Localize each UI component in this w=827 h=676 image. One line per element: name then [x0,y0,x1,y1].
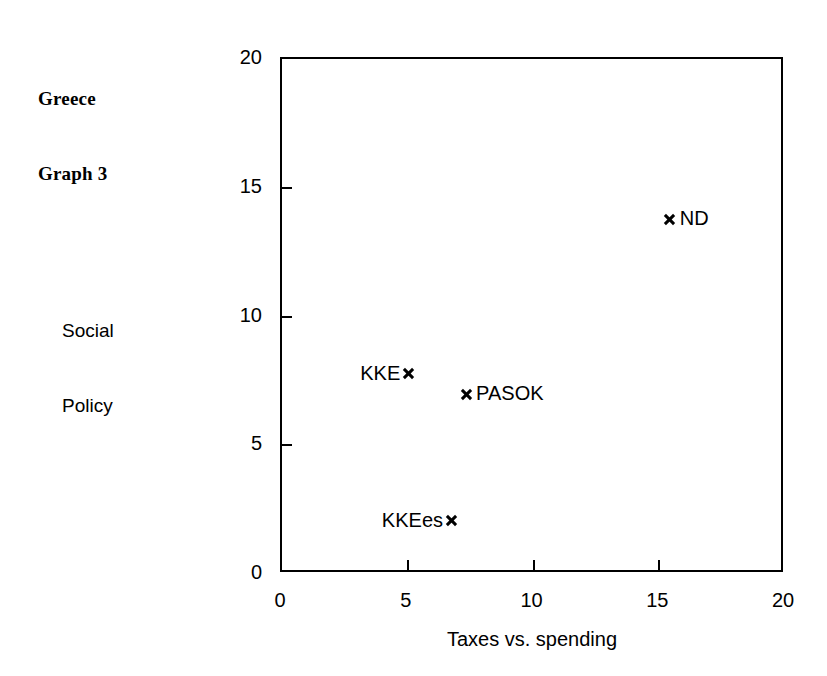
x-axis-label: Taxes vs. spending [280,628,784,651]
plot-area [280,57,783,572]
y-tick-label: 0 [202,562,262,582]
y-tick-label: 10 [202,305,262,325]
y-tick-label: 20 [202,47,262,67]
x-axis-tick [658,560,660,570]
figure-title-line-1: Greece [38,86,108,111]
y-axis-tick [282,444,292,446]
x-axis-tick [407,560,409,570]
y-axis-tick [282,187,292,189]
data-point-label: KKEes [382,510,443,530]
data-point-label: PASOK [476,383,543,403]
data-point-label: KKE [360,363,400,383]
y-axis-label-line-1: Social [62,318,114,343]
figure-title: Greece Graph 3 [38,36,108,236]
x-axis-tick [533,560,535,570]
x-tick-label: 20 [753,590,813,610]
x-tick-label: 15 [627,590,687,610]
x-tick-label: 5 [376,590,436,610]
y-tick-label: 5 [202,433,262,453]
x-tick-label: 0 [250,590,310,610]
data-point-marker[interactable] [443,513,459,529]
y-axis-label: Social Policy [62,268,114,468]
figure-canvas: Greece Graph 3 Social Policy Taxes vs. s… [0,0,827,676]
y-axis-tick [282,316,292,318]
x-tick-label: 10 [502,590,562,610]
y-axis-label-line-2: Policy [62,393,114,418]
data-point-marker[interactable] [458,386,474,402]
data-point-marker[interactable] [400,366,416,382]
data-point-marker[interactable] [662,211,678,227]
data-point-label: ND [680,208,709,228]
y-tick-label: 15 [202,176,262,196]
figure-title-line-2: Graph 3 [38,161,108,186]
